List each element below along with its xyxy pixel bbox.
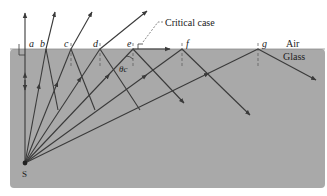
critical-leader: [143, 22, 163, 42]
critical-angle-label: θc: [119, 64, 127, 74]
label-a: a: [29, 38, 34, 49]
diagram: a b c d e f g Critical case θc Air Glass…: [0, 0, 327, 196]
label-g: g: [262, 38, 267, 49]
label-e: e: [127, 38, 132, 49]
medium-air-label: Air: [286, 38, 300, 49]
right-angle-marker-e: [138, 44, 143, 49]
medium-glass-label: Glass: [283, 51, 305, 62]
label-b: b: [40, 38, 45, 49]
ray-b-refracted: [46, 12, 55, 49]
label-c: c: [64, 38, 69, 49]
label-f: f: [186, 38, 190, 49]
source-point: [23, 161, 28, 166]
label-d: d: [93, 38, 99, 49]
ray-d-refracted: [100, 11, 147, 49]
ray-c-refracted: [71, 12, 92, 49]
glass-region: [10, 49, 325, 188]
source-label: S: [22, 169, 27, 179]
critical-case-label: Critical case: [165, 17, 215, 28]
